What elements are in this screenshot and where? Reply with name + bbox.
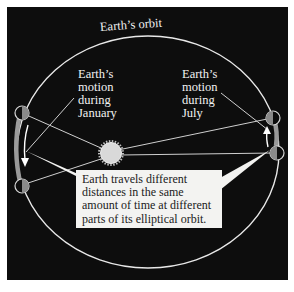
earth-july-start-icon xyxy=(266,111,280,125)
earth-july-end-icon xyxy=(270,146,284,160)
callout-pointer-right xyxy=(220,150,270,190)
july-label: Earth’s motion during July xyxy=(182,68,217,120)
sun-icon xyxy=(99,141,123,165)
earth-orbit-ellipse xyxy=(17,36,279,268)
earth-january-start-icon xyxy=(15,106,29,120)
callout-box: Earth travels different distances in the… xyxy=(76,170,222,228)
january-label: Earth’s motion during January xyxy=(78,68,117,120)
earth-january-end-icon xyxy=(15,179,29,193)
label-leader-lines xyxy=(26,93,268,152)
july-arrow-icon xyxy=(263,126,271,147)
callout-text: Earth travels different distances in the… xyxy=(82,172,211,226)
january-arrow-icon xyxy=(21,125,29,167)
orbit-diagram xyxy=(0,0,294,292)
